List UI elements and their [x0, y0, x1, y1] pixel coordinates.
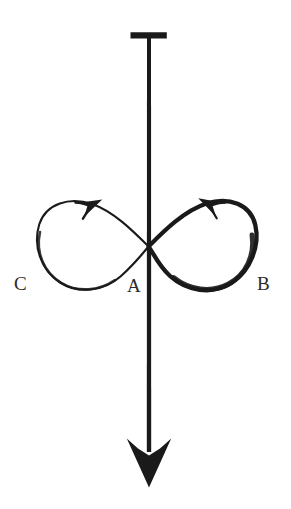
figure-canvas: C A B	[0, 0, 291, 509]
lemniscate-group	[37, 201, 257, 290]
vertical-rod-group	[127, 32, 171, 487]
point-label-a: A	[127, 276, 141, 295]
diagram-svg	[0, 0, 291, 509]
left-loop-direction-arrow-icon	[75, 191, 106, 219]
right-loop-shading	[174, 235, 253, 289]
point-label-c: C	[14, 274, 27, 293]
point-label-b: B	[257, 274, 270, 293]
left-loop-shading	[39, 232, 115, 289]
